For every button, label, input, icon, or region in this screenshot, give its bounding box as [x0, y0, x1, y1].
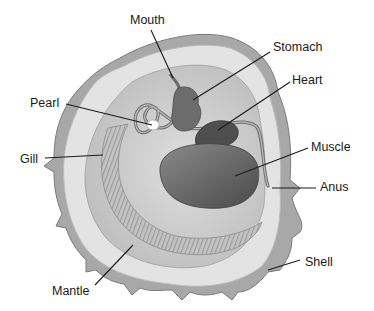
label-mouth: Mouth [130, 14, 165, 27]
label-heart: Heart [292, 74, 323, 87]
label-shell: Shell [305, 256, 333, 269]
pearl [147, 120, 159, 130]
oyster-diagram: Mouth Stomach Heart Pearl Muscle Gill An… [0, 0, 374, 311]
label-gill: Gill [20, 153, 38, 166]
stomach [172, 87, 201, 131]
muscle [160, 144, 259, 209]
label-muscle: Muscle [311, 141, 351, 154]
label-pearl: Pearl [30, 97, 59, 110]
label-anus: Anus [320, 181, 349, 194]
label-stomach: Stomach [273, 41, 322, 54]
label-mantle: Mantle [52, 285, 90, 298]
